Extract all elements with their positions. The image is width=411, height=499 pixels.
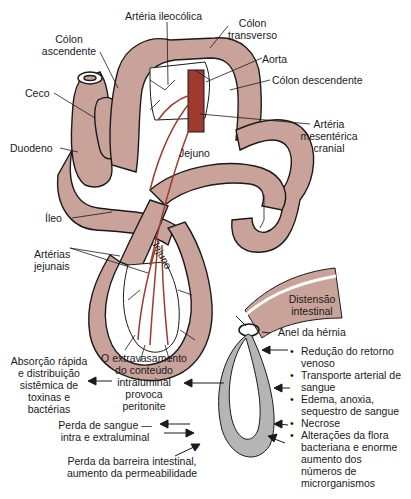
label-line: peritonite (98, 400, 190, 412)
label-colon-transverso: Cólon transverso (228, 17, 277, 41)
label-line: intraluminal (98, 376, 190, 388)
label-arteria-mesenterica: Artéria mesentérica cranial (297, 118, 361, 154)
item-line: microrganismos (301, 477, 401, 489)
item-line: bacteriana e enorme (301, 441, 401, 453)
label-anel-hernia: Anel da hérnia (278, 326, 346, 338)
label-line: toxinas e (8, 391, 90, 403)
item-line: sangue (301, 381, 401, 393)
label-line: transverso (228, 29, 277, 41)
label-jejuno-upper: Jejuno (179, 147, 210, 159)
label-line: ascendente (40, 45, 98, 57)
label-line: aumento da permeabilidade (62, 467, 202, 479)
item-line: venoso (301, 357, 401, 369)
consequences-list: Redução do retorno venoso Transporte art… (289, 345, 401, 489)
label-perda-sangue: Perda de sangue — intra e extraluminal (55, 419, 155, 443)
label-absorcao: Absorção rápida e distribuição sistêmica… (8, 355, 90, 415)
label-line: intestinal (282, 305, 342, 317)
consequence-item: Redução do retorno venoso (289, 345, 401, 369)
label-ileo: Íleo (45, 212, 62, 224)
label-line: provoca (98, 388, 190, 400)
label-line: bactérias (8, 403, 90, 415)
label-line: Cólon (228, 17, 277, 29)
consequence-item: Alterações da flora bacteriana e enorme … (289, 429, 401, 489)
label-distensao-intestinal: Distensão intestinal (282, 293, 342, 317)
label-line: sistêmica de (8, 379, 90, 391)
label-line: mesentérica (297, 130, 361, 142)
consequence-item: Transporte arterial de sangue (289, 369, 401, 393)
label-colon-ascendente: Cólon ascendente (40, 33, 98, 57)
item-line: Edema, anoxia, (301, 393, 401, 405)
item-line: Transporte arterial de (301, 369, 401, 381)
label-line: Distensão (282, 293, 342, 305)
label-line: O extravasamento (98, 352, 190, 364)
label-ceco: Ceco (25, 87, 50, 99)
label-extravasamento: O extravasamento do conteúdo intralumina… (98, 352, 190, 412)
item-line: sequestro de sangue (301, 405, 401, 417)
label-line: intra e extraluminal (55, 431, 155, 443)
item-line: Redução do retorno (301, 345, 401, 357)
label-perda-barreira: Perda da barreira intestinal, aumento da… (62, 455, 202, 479)
label-line: do conteúdo (98, 364, 190, 376)
label-line: e distribuição (8, 367, 90, 379)
consequence-item: Necrose (289, 417, 401, 429)
label-line: Perda da barreira intestinal, (62, 455, 202, 467)
item-line: Alterações da flora (301, 429, 401, 441)
label-line: Absorção rápida (8, 355, 90, 367)
label-line: Perda de sangue — (55, 419, 155, 431)
label-line: Cólon (40, 33, 98, 45)
label-aorta: Aorta (262, 53, 287, 65)
label-line: Artérias (34, 248, 70, 260)
label-arteria-ileocolica: Artéria ileocólica (125, 10, 202, 22)
label-line: cranial (297, 142, 361, 154)
consequence-item: Edema, anoxia, sequestro de sangue (289, 393, 401, 417)
label-arterias-jejunais: Artérias jejunais (34, 248, 70, 272)
item-line: Necrose (301, 417, 401, 429)
label-line: Artéria (297, 118, 361, 130)
item-line: números de (301, 465, 401, 477)
label-line: jejunais (34, 260, 70, 272)
label-colon-descendente: Cólon descendente (272, 74, 363, 86)
label-duodeno: Duodeno (10, 142, 53, 154)
item-line: aumento dos (301, 453, 401, 465)
